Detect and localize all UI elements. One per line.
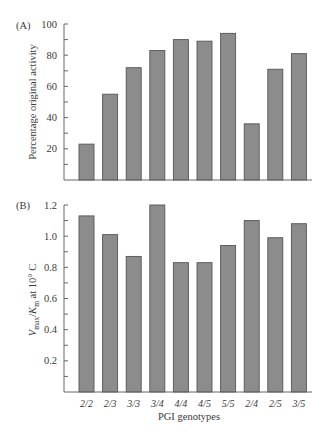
panel-a: (A) Percentage original activity 2040608… (16, 19, 312, 181)
y-tick-label: 40 (47, 112, 58, 123)
x-tick-label: 2/3 (104, 398, 117, 409)
panel-b-label: (B) (16, 200, 31, 212)
x-tick-label: 2/2 (80, 398, 93, 409)
panel-b: (B) Vmax/Km at 10° C 0.20.40.60.81.01.2 … (16, 200, 312, 423)
bar-2-2 (79, 216, 94, 392)
y-tick-label: 1.2 (44, 200, 57, 211)
bar-2-5 (268, 69, 283, 180)
y-tick-label: 80 (47, 50, 58, 61)
panel-a-y-axis-label: Percentage original activity (27, 44, 38, 160)
x-axis-label: PGI genotypes (158, 411, 220, 422)
bar-3-5 (291, 54, 306, 180)
y-tick-label: 100 (41, 19, 57, 30)
ylabel-v-sub: max (32, 317, 41, 330)
bar-4-4 (173, 40, 188, 180)
panel-a-label: (A) (16, 20, 31, 32)
bar-2-4 (244, 221, 259, 392)
x-tick-label: 3/5 (292, 398, 306, 409)
bar-3-4 (150, 205, 165, 392)
panel-b-bars (79, 205, 306, 392)
bar-5-5 (221, 246, 236, 392)
bar-2-2 (79, 144, 94, 180)
x-tick-label: 2/4 (245, 398, 258, 409)
y-tick-label: 20 (47, 143, 58, 154)
bar-2-4 (244, 124, 259, 180)
x-tick-label: 2/5 (269, 398, 282, 409)
bar-5-5 (221, 33, 236, 180)
y-tick-label: 60 (47, 81, 58, 92)
figure: (A) Percentage original activity 2040608… (0, 0, 330, 437)
bar-4-5 (197, 263, 212, 392)
panel-a-bars (79, 33, 306, 180)
ylabel-rest: at 10° C (27, 264, 38, 301)
x-tick-label: 3/4 (150, 398, 164, 409)
y-tick-label: 0.6 (44, 293, 57, 304)
y-tick-label: 0.8 (44, 262, 57, 273)
panel-b-y-axis-label: Vmax/Km at 10° C (27, 264, 41, 336)
bar-3-5 (291, 224, 306, 392)
y-tick-label: 1.0 (44, 231, 57, 242)
x-tick-label: 4/5 (198, 398, 211, 409)
x-tick-label: 4/4 (175, 398, 188, 409)
y-tick-label: 0.2 (44, 355, 57, 366)
y-tick-label: 0.4 (44, 324, 58, 335)
bar-3-3 (126, 256, 141, 392)
bar-4-4 (173, 263, 188, 392)
x-tick-label: 3/3 (126, 398, 140, 409)
bar-3-3 (126, 68, 141, 180)
x-tick-label: 5/5 (222, 398, 235, 409)
bar-4-5 (197, 41, 212, 180)
bar-2-5 (268, 238, 283, 392)
bar-2-3 (103, 235, 118, 392)
x-axis-categories: 2/22/33/33/44/44/55/52/42/53/5 (80, 398, 305, 409)
bar-3-4 (150, 51, 165, 180)
bar-2-3 (103, 94, 118, 180)
